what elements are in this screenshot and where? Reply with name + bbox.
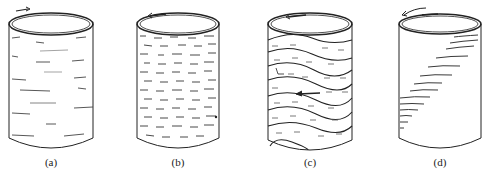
panel-c: (c) [262,0,372,181]
panel-label-c: (c) [255,156,365,168]
panel-b: (b) [130,0,240,181]
cylinder-d-icon [392,0,490,160]
panel-label-a: (a) [0,156,106,168]
panel-a: (a) [0,0,110,181]
panel-label-d: (d) [385,156,490,168]
cylinder-a-icon [0,0,110,160]
panel-label-b: (b) [123,156,233,168]
panel-d: (d) [392,0,490,181]
cylinder-c-icon [262,0,372,160]
cylinder-figure: (a) [0,0,490,181]
cylinder-b-icon [130,0,240,160]
